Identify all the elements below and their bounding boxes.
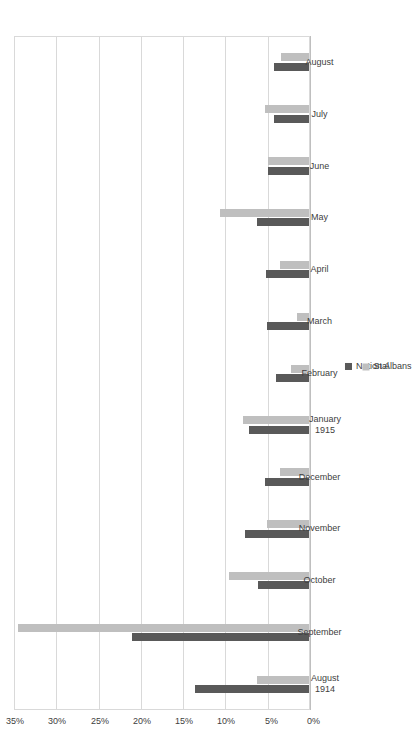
chart-legend: NationalSt Albans: [362, 0, 392, 732]
tick-label-25pct: 25%: [87, 716, 109, 726]
category-label-line: September: [294, 627, 346, 638]
category-label-line: August: [294, 56, 346, 67]
bar-group: [14, 295, 310, 347]
category-label: January1915: [299, 414, 351, 436]
category-label-line: February: [294, 368, 346, 379]
category-label: June: [294, 160, 346, 171]
category-label-line: December: [294, 471, 346, 482]
category-label-line: October: [294, 575, 346, 586]
bar-st-albans[interactable]: [18, 624, 310, 632]
category-label-line: March: [294, 316, 346, 327]
tick-label-5pct: 5%: [256, 716, 278, 726]
bar-group: [14, 140, 310, 192]
bar-group: [14, 399, 310, 451]
bar-national[interactable]: [132, 633, 310, 641]
bar-group: [14, 658, 310, 710]
tick-label-10pct: 10%: [213, 716, 235, 726]
category-label-line: 1914: [299, 684, 351, 695]
category-label: September: [294, 627, 346, 638]
bar-group: [14, 347, 310, 399]
legend-item[interactable]: St Albans: [362, 361, 411, 371]
tick-label-15pct: 15%: [171, 716, 193, 726]
bar-group: [14, 88, 310, 140]
category-label: August: [294, 56, 346, 67]
bar-group: [14, 192, 310, 244]
category-label-line: 1915: [299, 425, 351, 436]
tick-label-30pct: 30%: [44, 716, 66, 726]
bar-group: [14, 503, 310, 555]
category-label-line: April: [294, 264, 346, 275]
category-label-line: June: [294, 160, 346, 171]
category-label: May: [294, 212, 346, 223]
category-label-line: May: [294, 212, 346, 223]
category-label: July: [294, 108, 346, 119]
bar-group: [14, 606, 310, 658]
category-label: April: [294, 264, 346, 275]
bar-group: [14, 243, 310, 295]
category-label-line: January: [299, 414, 351, 425]
plot-area: [14, 36, 310, 710]
category-label: August1914: [299, 673, 351, 695]
category-label-line: August: [299, 673, 351, 684]
bar-group: [14, 451, 310, 503]
bar-group: [14, 36, 310, 88]
category-label-line: November: [294, 523, 346, 534]
bar-group: [14, 554, 310, 606]
legend-swatch-icon: [345, 363, 352, 370]
bar-national[interactable]: [195, 685, 310, 693]
legend-swatch-icon: [362, 363, 369, 370]
category-label: November: [294, 523, 346, 534]
category-label: December: [294, 471, 346, 482]
tick-label-20pct: 20%: [129, 716, 151, 726]
tick-label-35pct: 35%: [2, 716, 24, 726]
category-label: February: [294, 368, 346, 379]
legend-label: St Albans: [373, 361, 411, 371]
category-label-line: July: [294, 108, 346, 119]
category-label: October: [294, 575, 346, 586]
tick-label-0pct: 0%: [298, 716, 320, 726]
category-label: March: [294, 316, 346, 327]
